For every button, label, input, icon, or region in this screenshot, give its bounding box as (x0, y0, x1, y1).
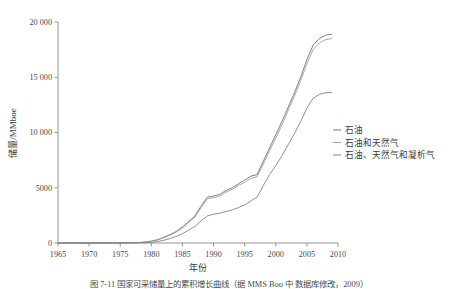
y-axis-title: 储量/MMboe (7, 108, 18, 158)
chart-legend: 石油石油和天然气石油、天然气和凝析气 (333, 124, 435, 160)
x-axis-title: 年份 (189, 262, 207, 272)
x-tick-label: 1970 (81, 250, 97, 259)
legend-label: 石油和天然气 (345, 137, 399, 148)
y-axis-tick-labels: 0500010 00015 00020 000 (29, 18, 52, 248)
x-tick-label: 1980 (143, 250, 159, 259)
figure-caption: 图 7-11 国家可采储量上的累积增长曲线（据 MMS Boo 中 数据库修改，… (0, 277, 458, 289)
series-line (58, 34, 332, 243)
figure-container: 0500010 00015 00020 000 1965197019751980… (0, 0, 458, 289)
legend-label: 石油 (345, 124, 363, 135)
y-tick-label: 0 (48, 239, 52, 248)
legend-label: 石油、天然气和凝析气 (345, 149, 435, 160)
x-tick-label: 1995 (236, 250, 252, 259)
x-axis-tick-labels: 1965197019751980198519901995200020052010 (50, 250, 346, 259)
y-tick-label: 5000 (36, 184, 52, 193)
y-tick-label: 10 000 (29, 128, 52, 137)
x-tick-label: 1965 (50, 250, 66, 259)
y-tick-label: 15 000 (29, 73, 52, 82)
chart-axes (55, 22, 339, 247)
x-tick-label: 2010 (330, 250, 346, 259)
x-tick-label: 2005 (299, 250, 315, 259)
x-tick-label: 1975 (112, 250, 128, 259)
x-tick-label: 1985 (174, 250, 190, 259)
y-tick-label: 20 000 (29, 18, 52, 27)
x-tick-label: 2000 (268, 250, 284, 259)
data-series-group (58, 34, 332, 243)
reserves-growth-line-chart: 0500010 00015 00020 000 1965197019751980… (0, 0, 458, 272)
series-line (58, 93, 332, 244)
x-tick-label: 1990 (205, 250, 221, 259)
